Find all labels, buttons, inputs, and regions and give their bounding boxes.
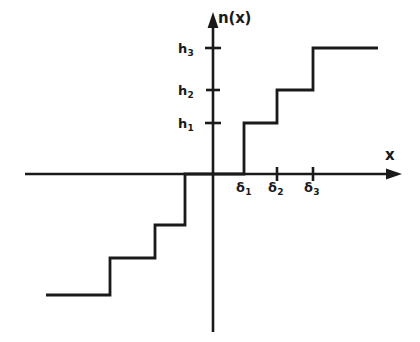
x-tick-label-delta3-sub: 3 — [313, 187, 319, 197]
x-tick-label-delta1-sub: 1 — [245, 187, 251, 197]
x-tick-label-delta2: δ2 — [268, 181, 283, 194]
x-tick-label-delta2-sub: 2 — [277, 187, 283, 197]
x-tick-label-delta3-base: δ — [304, 180, 313, 195]
y-tick-label-h1-sub: 1 — [188, 123, 194, 133]
x-axis-label: x — [385, 148, 394, 163]
y-tick-label-h1-base: h — [178, 116, 187, 131]
y-axis-group — [208, 12, 219, 332]
x-tick-label-delta3: δ3 — [304, 181, 319, 194]
y-tick-label-h3-sub: 3 — [188, 48, 194, 58]
step-function-figure: n(x) x h1 h2 h3 δ1 δ2 δ3 — [0, 0, 420, 342]
y-tick-label-h2: h2 — [178, 84, 193, 97]
y-tick-label-h1: h1 — [178, 117, 193, 130]
y-tick-label-h2-sub: 2 — [188, 90, 194, 100]
step-function-svg — [0, 0, 420, 342]
x-tick-label-delta2-base: δ — [268, 180, 277, 195]
x-axis-arrowhead — [386, 169, 402, 180]
y-tick-label-h2-base: h — [178, 83, 187, 98]
x-tick-label-delta1-base: δ — [236, 180, 245, 195]
x-tick-label-delta1: δ1 — [236, 181, 251, 194]
y-tick-label-h3: h3 — [178, 42, 193, 55]
y-tick-label-h3-base: h — [178, 41, 187, 56]
y-axis-arrowhead — [208, 12, 219, 28]
y-axis-label: n(x) — [218, 11, 251, 26]
